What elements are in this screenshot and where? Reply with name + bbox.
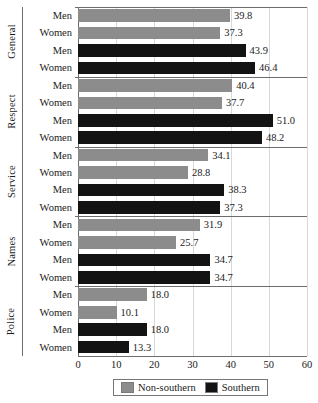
bar-value-label: 34.7 — [210, 251, 232, 268]
bar-chart: GeneralMen39.8Women37.3Men43.9Women46.4R… — [0, 0, 318, 403]
bar-row: Women48.2 — [0, 129, 318, 146]
bar-value-label: 48.2 — [262, 129, 284, 146]
bar-value-label: 38.3 — [224, 181, 246, 198]
row-label-men: Men — [23, 112, 75, 129]
x-tick-label: 50 — [264, 359, 275, 370]
bar-track: 37.3 — [78, 199, 318, 216]
bar-track: 40.4 — [78, 77, 318, 94]
bar-row: Men51.0 — [0, 112, 318, 129]
bar-track: 18.0 — [78, 286, 318, 303]
bar-track: 34.7 — [78, 269, 318, 286]
bar-row: Women37.3 — [0, 24, 318, 41]
bar-value-label: 13.3 — [129, 339, 151, 356]
x-tick-label: 20 — [149, 359, 160, 370]
bar-group: NamesMen31.9Women25.7Men34.7Women34.7 — [0, 216, 318, 286]
bar-track: 37.7 — [78, 94, 318, 111]
bar-value-label: 31.9 — [200, 216, 222, 233]
bar — [78, 306, 117, 319]
bar-row: Women28.8 — [0, 164, 318, 181]
row-label-women: Women — [23, 339, 75, 356]
bar — [78, 271, 210, 284]
bar-group: RespectMen40.4Women37.7Men51.0Women48.2 — [0, 77, 318, 147]
bar — [78, 97, 222, 110]
bar — [78, 236, 176, 249]
bar-row: Men18.0 — [0, 286, 318, 303]
bar-value-label: 37.3 — [220, 199, 242, 216]
legend-item: Non-southern — [121, 382, 196, 393]
bar-track: 18.0 — [78, 321, 318, 338]
bar-value-label: 51.0 — [273, 112, 295, 129]
bar — [78, 9, 230, 22]
row-label-men: Men — [23, 286, 75, 303]
bar-track: 51.0 — [78, 112, 318, 129]
bar-row: Men34.1 — [0, 147, 318, 164]
bar-track: 34.7 — [78, 251, 318, 268]
bar-group: PoliceMen18.0Women10.1Men18.0Women13.3 — [0, 286, 318, 356]
bar-track: 34.1 — [78, 147, 318, 164]
bar-value-label: 34.1 — [208, 147, 230, 164]
bar-row: Women34.7 — [0, 269, 318, 286]
bar — [78, 323, 147, 336]
bar-row: Men40.4 — [0, 77, 318, 94]
bar-track: 48.2 — [78, 129, 318, 146]
row-label-men: Men — [23, 216, 75, 233]
bar-row: Men43.9 — [0, 42, 318, 59]
bar-value-label: 46.4 — [255, 59, 277, 76]
bar-value-label: 43.9 — [246, 42, 268, 59]
legend-swatch-icon — [121, 382, 134, 393]
bar-track: 10.1 — [78, 304, 318, 321]
bar-row: Women46.4 — [0, 59, 318, 76]
bar — [78, 288, 147, 301]
bar-row: Women10.1 — [0, 304, 318, 321]
row-label-men: Men — [23, 321, 75, 338]
chart-legend: Non-southernSouthern — [113, 379, 268, 396]
bar — [78, 79, 232, 92]
bar-row: Men18.0 — [0, 321, 318, 338]
row-label-men: Men — [23, 42, 75, 59]
x-axis-ticks: 0102030405060 — [78, 357, 307, 373]
row-label-women: Women — [23, 304, 75, 321]
bar-track: 39.8 — [78, 7, 318, 24]
row-label-men: Men — [23, 7, 75, 24]
bar — [78, 166, 188, 179]
legend-label: Non-southern — [138, 382, 196, 393]
bar-value-label: 18.0 — [147, 286, 169, 303]
row-label-women: Women — [23, 164, 75, 181]
row-label-women: Women — [23, 24, 75, 41]
bar — [78, 114, 273, 127]
bar-row: Women25.7 — [0, 234, 318, 251]
bar-group: ServiceMen34.1Women28.8Men38.3Women37.3 — [0, 147, 318, 217]
bar-value-label: 37.3 — [220, 24, 242, 41]
x-tick-label: 0 — [75, 359, 80, 370]
row-label-women: Women — [23, 234, 75, 251]
row-label-women: Women — [23, 59, 75, 76]
bar-value-label: 10.1 — [117, 304, 139, 321]
row-label-women: Women — [23, 129, 75, 146]
x-tick-label: 40 — [225, 359, 236, 370]
bar-track: 31.9 — [78, 216, 318, 233]
row-label-men: Men — [23, 77, 75, 94]
bar-value-label: 37.7 — [222, 94, 244, 111]
row-label-men: Men — [23, 147, 75, 164]
bar-value-label: 18.0 — [147, 321, 169, 338]
bar — [78, 62, 255, 75]
legend-item: Southern — [205, 382, 260, 393]
bar-row: Men34.7 — [0, 251, 318, 268]
bar-value-label: 34.7 — [210, 269, 232, 286]
bar-track: 46.4 — [78, 59, 318, 76]
bar-row: Women13.3 — [0, 339, 318, 356]
row-label-men: Men — [23, 251, 75, 268]
bar-row: Women37.7 — [0, 94, 318, 111]
bar-value-label: 39.8 — [230, 7, 252, 24]
bar — [78, 219, 200, 232]
bar-track: 38.3 — [78, 181, 318, 198]
bar — [78, 149, 208, 162]
legend-label: Southern — [222, 382, 260, 393]
bar-group: GeneralMen39.8Women37.3Men43.9Women46.4 — [0, 7, 318, 77]
bar-value-label: 25.7 — [176, 234, 198, 251]
bar-track: 43.9 — [78, 42, 318, 59]
bar — [78, 254, 210, 267]
x-tick-label: 30 — [187, 359, 198, 370]
row-label-women: Women — [23, 94, 75, 111]
legend-swatch-icon — [205, 382, 218, 393]
